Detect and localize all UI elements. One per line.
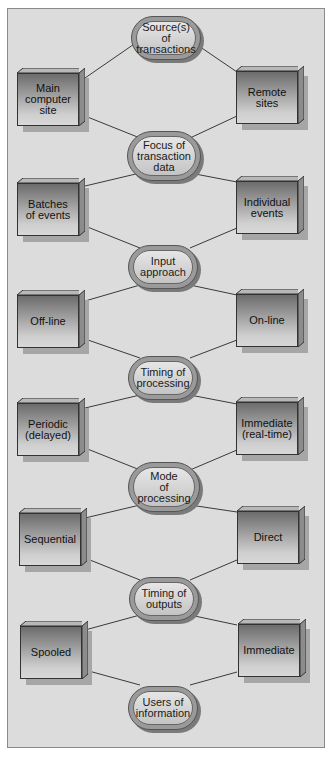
option-box-left: Periodic (delayed) [17,398,81,452]
option-label: Periodic (delayed) [17,403,79,456]
option-label: Sequential [19,513,81,566]
option-label: On-line [236,294,298,347]
option-box-right: Remote sites [236,66,300,120]
option-box-left: Batches of events [17,178,81,232]
option-label: Batches of events [17,183,79,236]
option-box-left: Sequential [19,508,83,562]
criterion-oval: Focus of transaction data [127,131,201,181]
option-label: Immediate [238,624,300,677]
option-label: Immediate (real-time) [236,402,298,455]
option-box-left: Spooled [20,621,84,675]
criterion-oval: Timing of outputs [129,577,199,621]
criterion-label: Focus of transaction data [132,136,196,176]
option-label: Spooled [20,626,82,679]
criterion-oval: Source(s) of transactions [131,16,201,60]
option-label: Off-line [17,295,79,348]
criterion-oval: Timing of processing [128,356,198,400]
criterion-label: Users of information [133,691,193,725]
option-label: Remote sites [236,71,298,124]
criterion-label: Source(s) of transactions [136,21,196,55]
criterion-label: Timing of outputs [134,582,194,616]
option-box-right: Direct [237,506,301,560]
option-label: Direct [237,511,299,564]
option-box-right: Individual events [236,176,300,230]
option-box-left: Off-line [17,290,81,344]
criterion-oval: Mode of processing [128,462,200,512]
criterion-oval: Users of information [128,686,198,730]
criterion-label: Mode of processing [133,467,195,507]
option-box-right: Immediate [238,619,302,673]
option-box-left: Main computer site [17,68,81,122]
option-box-right: Immediate (real-time) [236,397,300,451]
criterion-oval: Input approach [128,245,198,289]
option-label: Main computer site [17,73,79,126]
criterion-label: Input approach [133,250,193,284]
option-box-right: On-line [236,289,300,343]
criterion-label: Timing of processing [133,361,193,395]
option-label: Individual events [236,181,298,234]
